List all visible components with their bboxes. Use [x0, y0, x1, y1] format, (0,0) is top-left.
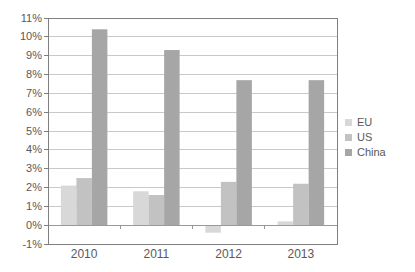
y-tick-label--1%: -1% [22, 238, 42, 250]
y-tick-label-10%: 10% [20, 30, 42, 42]
legend-swatch-eu [345, 119, 352, 126]
legend-item-eu: EU [345, 116, 386, 128]
y-tick-label-11%: 11% [21, 12, 42, 24]
bar-china-2011 [164, 50, 180, 225]
y-tick-label-4%: 4% [26, 143, 42, 155]
y-tick-label-0%: 0% [26, 219, 42, 231]
legend-item-us: US [345, 131, 386, 143]
y-tick-label-2%: 2% [26, 181, 42, 193]
y-tick-label-1%: 1% [26, 200, 42, 212]
y-tick-label-8%: 8% [26, 68, 42, 80]
bar-us-2012 [221, 182, 237, 225]
bar-eu-2013 [278, 221, 294, 225]
x-tick-label-2011: 2011 [143, 247, 169, 261]
bar-china-2012 [236, 80, 252, 225]
legend-label-eu: EU [357, 116, 372, 128]
bar-eu-2012 [205, 225, 221, 233]
bar-us-2013 [293, 184, 309, 225]
legend-swatch-china [345, 149, 352, 156]
bar-us-2010 [76, 178, 92, 225]
y-tick-label-7%: 7% [26, 87, 42, 99]
legend-swatch-us [345, 134, 352, 141]
y-tick-label-6%: 6% [26, 106, 42, 118]
legend-label-us: US [357, 131, 372, 143]
y-tick-label-3%: 3% [26, 162, 42, 174]
y-tick-label-5%: 5% [26, 125, 42, 137]
legend-label-china: China [357, 146, 386, 158]
bar-eu-2011 [133, 191, 149, 225]
legend-item-china: China [345, 146, 386, 158]
x-tick-label-2010: 2010 [71, 247, 98, 261]
chart-legend: EUUSChina [345, 116, 386, 158]
y-tick-label-9%: 9% [26, 49, 42, 61]
chart-panel: -1%0%1%2%3%4%5%6%7%8%9%10%11%20102011201… [0, 0, 415, 272]
bar-china-2010 [92, 29, 108, 225]
x-tick-label-2013: 2013 [288, 247, 315, 261]
bar-us-2011 [149, 195, 165, 225]
bar-eu-2010 [61, 186, 77, 226]
x-tick-label-2012: 2012 [215, 247, 242, 261]
bar-china-2013 [309, 80, 325, 225]
